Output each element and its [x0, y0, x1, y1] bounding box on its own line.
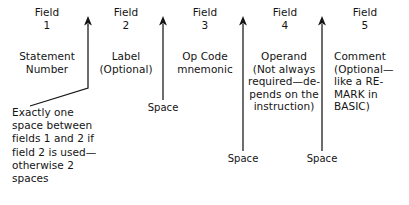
field-header-3-word: Field — [169, 6, 241, 19]
spacing-note: Exactly one space between fields 1 and 2… — [12, 106, 120, 185]
field-header-5-word: Field — [329, 6, 401, 19]
field-header-1: Field 1 — [8, 6, 86, 31]
field-header-2-number: 2 — [90, 19, 162, 32]
field-header-2: Field 2 — [90, 6, 162, 31]
field-header-5-number: 5 — [329, 19, 401, 32]
space-label-4: Space — [296, 153, 348, 165]
field-header-1-word: Field — [8, 6, 86, 19]
field-header-4-word: Field — [249, 6, 321, 19]
field-description-1: Statement Number — [4, 50, 90, 75]
field-layout-diagram: Field 1 Field 2 Field 3 Field 4 Field 5 … — [0, 0, 409, 205]
field-header-3: Field 3 — [169, 6, 241, 31]
field-description-2: Label (Optional) — [92, 50, 160, 75]
field-header-3-number: 3 — [169, 19, 241, 32]
field-header-4: Field 4 — [249, 6, 321, 31]
field-description-3: Op Code mnemonic — [170, 50, 240, 75]
space-label-2: Space — [137, 102, 189, 114]
separator-arrow-3 — [239, 16, 247, 151]
field-header-4-number: 4 — [249, 19, 321, 32]
field-header-2-word: Field — [90, 6, 162, 19]
space-label-3: Space — [217, 153, 269, 165]
field-description-5: Comment (Optional— like a RE- MARK in BA… — [328, 50, 404, 113]
field-header-1-number: 1 — [8, 19, 86, 32]
field-description-4: Operand (Not always required—de- pends o… — [248, 50, 320, 113]
field-header-5: Field 5 — [329, 6, 401, 31]
